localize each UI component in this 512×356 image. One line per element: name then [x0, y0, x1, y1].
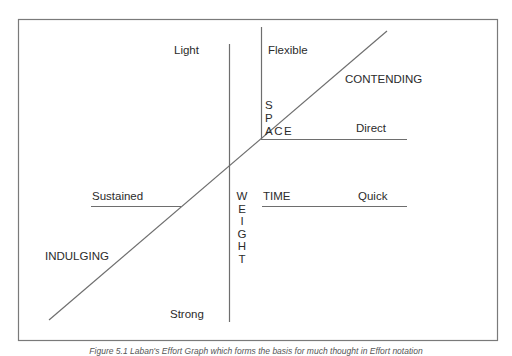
- frame-border: [19, 20, 498, 341]
- space-letter-p: P: [265, 112, 273, 124]
- sustained-label: Sustained: [92, 190, 143, 202]
- weight-vertical-label: W E I G H T: [236, 190, 248, 266]
- light-label: Light: [174, 44, 199, 56]
- contending-label: CONTENDING: [345, 73, 422, 85]
- weight-letter: H: [236, 240, 248, 253]
- figure-caption: Figure 5.1 Laban's Effort Graph which fo…: [0, 346, 512, 356]
- weight-letter: E: [236, 203, 248, 216]
- flexible-label: Flexible: [268, 44, 308, 56]
- quick-label: Quick: [358, 190, 387, 202]
- weight-letter: I: [236, 215, 248, 228]
- weight-letter: T: [236, 253, 248, 266]
- flow-diagonal-line: [49, 31, 387, 320]
- weight-letter: W: [236, 190, 248, 203]
- indulging-label: INDULGING: [45, 250, 109, 262]
- space-letters-ace: ACE: [265, 125, 293, 137]
- time-label: TIME: [263, 190, 290, 202]
- direct-label: Direct: [356, 122, 386, 134]
- strong-label: Strong: [170, 308, 204, 320]
- space-letter-s: S: [265, 99, 273, 111]
- weight-letter: G: [236, 228, 248, 241]
